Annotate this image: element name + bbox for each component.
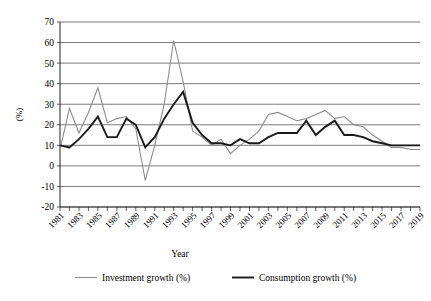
xtick-label: 1983 (65, 210, 85, 230)
xtick-label: 1981 (46, 210, 66, 230)
xtick-label: 1997 (198, 210, 218, 230)
xtick-label: 1987 (103, 210, 123, 230)
ytick-label: -20 (41, 202, 54, 212)
xtick-label: 1999 (217, 210, 237, 230)
xtick-label: 2003 (255, 210, 275, 230)
xtick-label: 1989 (122, 210, 142, 230)
ytick-label: 0 (49, 161, 54, 171)
ytick-label: -10 (41, 182, 54, 192)
xtick-label: 2001 (236, 210, 256, 230)
xtick-label: 2013 (349, 210, 369, 230)
series-line-1 (60, 41, 420, 181)
xtick-label: 2009 (311, 210, 331, 230)
xtick-label: 2011 (331, 210, 351, 230)
xtick-label: 1995 (179, 210, 199, 230)
ytick-label: 20 (45, 120, 55, 130)
xtick-label: 1985 (84, 210, 104, 230)
x-axis-title: Year (171, 249, 189, 259)
ytick-label: 60 (45, 38, 55, 48)
xtick-label: 1993 (160, 210, 180, 230)
xtick-label: 2007 (292, 210, 312, 230)
line-chart: 706050403020100-10-201981198319851987198… (0, 0, 431, 301)
xtick-label: 2017 (387, 210, 407, 230)
ytick-label: 30 (45, 100, 55, 110)
y-axis-title: (%) (14, 108, 24, 122)
ytick-label: 40 (45, 79, 55, 89)
chart-container: 706050403020100-10-201981198319851987198… (0, 0, 431, 301)
xtick-label: 2015 (368, 210, 388, 230)
xtick-label: 1991 (141, 210, 161, 230)
ytick-label: 10 (45, 141, 55, 151)
ytick-label: 50 (45, 59, 55, 69)
ytick-label: 70 (45, 17, 55, 27)
legend-label-1: Investment growth (%) (102, 273, 190, 284)
xtick-label: 2019 (406, 210, 426, 230)
xtick-label: 2005 (273, 210, 293, 230)
legend-label-2: Consumption growth (%) (259, 273, 356, 284)
